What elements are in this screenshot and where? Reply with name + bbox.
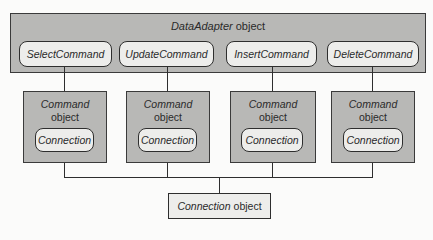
command-object-title: Command object (332, 98, 414, 124)
select-command-pill: SelectCommand (19, 41, 112, 67)
connector-line (272, 163, 273, 178)
dataadapter-title: DataAdapter object (11, 20, 425, 32)
delete-command-pill: DeleteCommand (327, 41, 419, 67)
update-command-pill: UpdateCommand (119, 41, 214, 67)
command-object-box: Command object Connection (331, 91, 415, 163)
connector-line (272, 67, 273, 91)
command-object-name: Command (24, 98, 106, 111)
command-object-box: Command object Connection (23, 91, 107, 163)
connector-line (167, 67, 168, 91)
dataadapter-title-name: DataAdapter (171, 20, 233, 32)
connector-line (372, 163, 373, 178)
insert-command-pill: InsertCommand (226, 41, 317, 67)
connection-object-suffix: object (234, 200, 262, 212)
connection-pill: Connection (343, 128, 403, 152)
connector-line (372, 67, 373, 91)
connection-object-name: Connection (177, 200, 230, 212)
connector-line (64, 163, 65, 178)
command-object-suffix: object (332, 111, 414, 124)
connection-pill: Connection (241, 128, 303, 152)
connector-line (219, 177, 220, 193)
connector-line (64, 67, 65, 91)
command-object-title: Command object (231, 98, 315, 124)
command-object-title: Command object (24, 98, 106, 124)
connection-pill: Connection (35, 128, 94, 152)
command-object-name: Command (231, 98, 315, 111)
connector-line (167, 163, 168, 178)
command-object-suffix: object (24, 111, 106, 124)
command-object-title: Command object (127, 98, 209, 124)
command-object-box: Command object Connection (126, 91, 210, 163)
connection-pill: Connection (138, 128, 197, 152)
command-object-suffix: object (231, 111, 315, 124)
connection-object-box: Connection object (168, 193, 271, 219)
command-object-suffix: object (127, 111, 209, 124)
dataadapter-title-suffix: object (236, 20, 265, 32)
command-object-name: Command (127, 98, 209, 111)
command-object-name: Command (332, 98, 414, 111)
command-object-box: Command object Connection (230, 91, 316, 163)
